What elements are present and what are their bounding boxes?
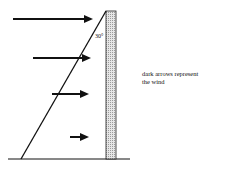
wind-arrow bbox=[13, 15, 93, 23]
pole bbox=[106, 11, 116, 159]
legend-text: dark arrows represent the wind bbox=[142, 70, 222, 86]
wind-arrow bbox=[52, 90, 89, 98]
wind-arrow bbox=[33, 54, 91, 62]
support-diagonal bbox=[21, 11, 106, 159]
angle-label: 30° bbox=[95, 33, 103, 39]
wind-arrow bbox=[70, 133, 89, 141]
legend-line-1: dark arrows represent bbox=[142, 70, 222, 78]
wind-diagram bbox=[0, 0, 226, 175]
legend-line-2: the wind bbox=[142, 78, 222, 86]
